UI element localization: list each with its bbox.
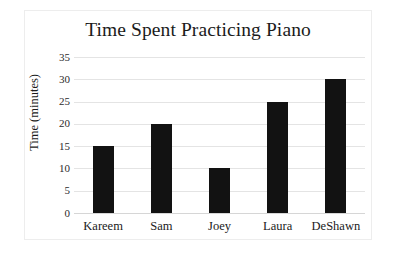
chart-title: Time Spent Practicing Piano [24, 19, 372, 41]
y-axis-tick-labels: 05101520253035 [40, 57, 70, 213]
bar [151, 124, 172, 213]
y-axis-tick-label: 35 [44, 52, 70, 63]
y-axis-tick-label: 25 [44, 96, 70, 107]
y-axis-tick-label: 0 [44, 208, 70, 219]
x-axis-category-label: Laura [263, 219, 292, 234]
bar [209, 168, 230, 213]
x-axis-category-labels: KareemSamJoeyLauraDeShawn [74, 219, 365, 239]
x-axis-category-label: DeShawn [312, 219, 361, 234]
x-axis-category-label: Sam [150, 219, 172, 234]
bar [267, 102, 288, 213]
bar [93, 146, 114, 213]
bar [325, 79, 346, 213]
y-axis-tick-label: 20 [44, 118, 70, 129]
bar-series [74, 57, 365, 213]
chart-figure: Time Spent Practicing Piano Time (minute… [0, 0, 397, 260]
gridline [74, 213, 365, 214]
y-axis-tick-label: 10 [44, 163, 70, 174]
x-axis-category-label: Joey [208, 219, 231, 234]
y-axis-tick-label: 30 [44, 74, 70, 85]
y-axis-tick-label: 15 [44, 141, 70, 152]
x-axis-category-label: Kareem [83, 219, 123, 234]
plot-area [74, 57, 365, 213]
y-axis-tick-label: 5 [44, 185, 70, 196]
